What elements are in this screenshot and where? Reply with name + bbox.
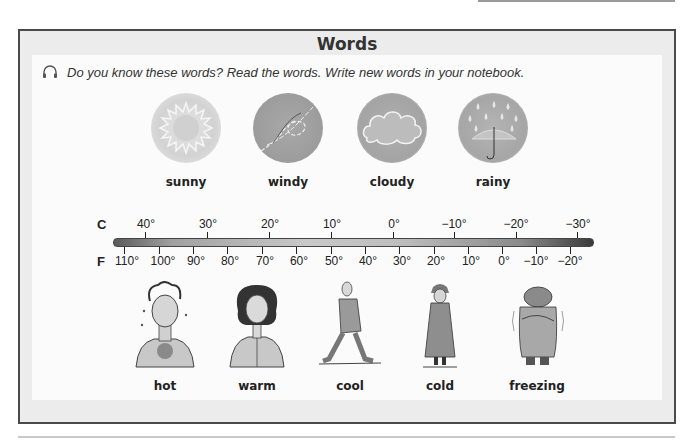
freezing-person-illustration: [502, 281, 572, 369]
thermometer-bar: [113, 238, 594, 247]
cold-person-illustration: [405, 281, 475, 369]
celsius-tick-label: −20°: [503, 217, 528, 231]
headphones-icon[interactable]: [42, 64, 58, 80]
feeling-label: cold: [395, 379, 485, 393]
fahrenheit-tick-label: 60°: [290, 254, 308, 268]
fahrenheit-tick-label: 110°: [115, 254, 139, 268]
celsius-tick-label: 20°: [261, 217, 279, 231]
top-rule: [478, 0, 675, 2]
feeling-label: cool: [305, 379, 395, 393]
fahrenheit-tick-label: 40°: [359, 254, 377, 268]
fahrenheit-label: F: [97, 254, 105, 269]
sun-icon: [151, 93, 221, 163]
feeling-label: freezing: [492, 379, 582, 393]
fahrenheit-tick: [399, 247, 400, 254]
instruction-line: Do you know these words? Read the words.…: [42, 64, 524, 80]
celsius-tick-label: 40°: [137, 217, 155, 231]
instruction-text: Do you know these words? Read the words.…: [67, 65, 524, 80]
wind-icon: [253, 93, 323, 163]
feeling-freezing: freezing: [492, 281, 582, 393]
celsius-tick-label: 30°: [199, 217, 217, 231]
bottom-rule: [18, 436, 675, 438]
feeling-cool: cool: [305, 281, 395, 393]
fahrenheit-tick: [124, 247, 125, 254]
fahrenheit-tick-label: 30°: [393, 254, 411, 268]
celsius-label: C: [97, 217, 106, 232]
fahrenheit-tick: [262, 247, 263, 254]
fahrenheit-tick-label: 20°: [427, 254, 445, 268]
celsius-tick-label: 0°: [388, 217, 399, 231]
celsius-tick-label: 10°: [323, 217, 341, 231]
fahrenheit-tick: [159, 247, 160, 254]
fahrenheit-tick: [193, 247, 194, 254]
feeling-hot: hot: [120, 281, 210, 393]
cloud-icon: [357, 93, 427, 163]
weather-label: rainy: [451, 175, 535, 189]
fahrenheit-tick: [468, 247, 469, 254]
fahrenheit-tick: [570, 247, 571, 254]
words-panel: Words Do you know these words? Read the …: [18, 29, 676, 424]
fahrenheit-tick-label: 70°: [256, 254, 274, 268]
fahrenheit-tick-label: 80°: [221, 254, 239, 268]
weather-rainy: rainy: [451, 93, 535, 189]
rain-umbrella-icon: [458, 93, 528, 163]
weather-label: sunny: [144, 175, 228, 189]
fahrenheit-tick-label: 0°: [498, 254, 509, 268]
celsius-tick-label: −30°: [565, 217, 590, 231]
celsius-tick-label: −10°: [441, 217, 466, 231]
fahrenheit-tick: [536, 247, 537, 254]
feeling-label: hot: [120, 379, 210, 393]
feeling-label: warm: [212, 379, 302, 393]
fahrenheit-tick-label: 100°: [151, 254, 176, 268]
weather-sunny: sunny: [144, 93, 228, 189]
fahrenheit-tick: [296, 247, 297, 254]
fahrenheit-tick-label: 50°: [325, 254, 343, 268]
fahrenheit-tick: [227, 247, 228, 254]
fahrenheit-tick: [502, 247, 503, 254]
warm-person-illustration: [222, 281, 292, 369]
feeling-warm: warm: [212, 281, 302, 393]
fahrenheit-tick: [331, 247, 332, 254]
fahrenheit-tick-label: 90°: [187, 254, 205, 268]
hot-person-illustration: [130, 281, 200, 369]
fahrenheit-tick: [434, 247, 435, 254]
weather-windy: windy: [246, 93, 330, 189]
cool-person-illustration: [315, 281, 385, 369]
fahrenheit-tick-label: −20°: [557, 254, 582, 268]
fahrenheit-tick: [365, 247, 366, 254]
section-title: Words: [20, 34, 674, 54]
fahrenheit-tick-label: 10°: [462, 254, 480, 268]
weather-cloudy: cloudy: [350, 93, 434, 189]
weather-label: cloudy: [350, 175, 434, 189]
feeling-cold: cold: [395, 281, 485, 393]
fahrenheit-tick-label: −10°: [523, 254, 548, 268]
weather-label: windy: [246, 175, 330, 189]
